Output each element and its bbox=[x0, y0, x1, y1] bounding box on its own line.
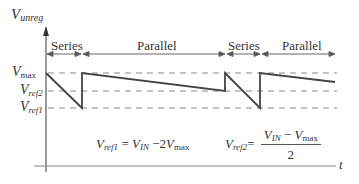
y-axis-label: Vunreg bbox=[11, 7, 43, 23]
eq2-num-term1-sub: IN bbox=[272, 133, 281, 143]
voltage-waveform-diagram: Vunreg t Vmax Vref2 Vref1 Series Paralle… bbox=[0, 0, 359, 184]
y-axis-label-sub: unreg bbox=[20, 12, 43, 23]
eq2-denominator: 2 bbox=[261, 145, 321, 163]
y-axis-arrow-icon bbox=[43, 26, 49, 36]
eq2-num-term2-sub: max bbox=[302, 133, 318, 143]
eq1-lhs-sub: ref1 bbox=[104, 142, 118, 152]
eq2-equals: = bbox=[247, 136, 254, 151]
eq1-term2-sub: max bbox=[174, 142, 190, 152]
vmax-label-sub: max bbox=[21, 70, 37, 80]
eq2-num-operator: − bbox=[284, 127, 291, 142]
eq1-lhs-main: V bbox=[96, 136, 104, 151]
vref2-label: Vref2 bbox=[20, 83, 43, 98]
phase-label-series-2: Series bbox=[228, 38, 260, 54]
vref2-label-main: V bbox=[20, 82, 29, 97]
equation-vref1: Vref1 = VIN −2Vmax bbox=[96, 136, 189, 152]
phase-label-parallel-1: Parallel bbox=[137, 38, 177, 54]
phase-label-parallel-2: Parallel bbox=[282, 38, 322, 54]
vref2-label-sub: ref2 bbox=[29, 88, 43, 98]
eq2-numerator: VIN − Vmax bbox=[261, 127, 321, 145]
x-axis-label: t bbox=[339, 158, 343, 171]
y-axis-label-main: V bbox=[11, 6, 20, 22]
eq1-equals: = bbox=[121, 136, 128, 151]
eq2-lhs-main: V bbox=[225, 136, 233, 151]
vref1-label-main: V bbox=[20, 99, 29, 114]
eq1-term1-main: V bbox=[132, 136, 140, 151]
vmax-label: Vmax bbox=[12, 65, 36, 80]
equation-vref2: Vref2= VIN − Vmax 2 bbox=[225, 127, 321, 163]
phase-label-series-1: Series bbox=[51, 38, 83, 54]
eq1-term1-sub: IN bbox=[140, 142, 149, 152]
eq2-lhs-sub: ref2 bbox=[233, 142, 247, 152]
vmax-label-main: V bbox=[12, 64, 21, 79]
vref1-label-sub: ref1 bbox=[29, 105, 43, 115]
eq1-term2-main: V bbox=[166, 136, 174, 151]
eq1-operator: − bbox=[152, 136, 159, 151]
eq2-fraction: VIN − Vmax 2 bbox=[261, 127, 321, 163]
vref1-label: Vref1 bbox=[20, 100, 43, 115]
eq2-num-term1-main: V bbox=[264, 127, 272, 142]
